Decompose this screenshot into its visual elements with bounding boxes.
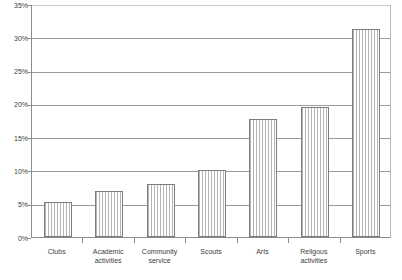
y-tick-label: 10% (2, 168, 28, 175)
bar (147, 184, 175, 237)
x-tick-mark (185, 238, 186, 243)
x-tick-mark (237, 238, 238, 243)
gridline (32, 138, 390, 139)
y-tick-label: 25% (2, 68, 28, 75)
bar (95, 191, 123, 237)
y-tick-label: 20% (2, 101, 28, 108)
bar (249, 119, 277, 237)
plot-area (31, 5, 391, 238)
y-tick-label: 5% (2, 201, 28, 208)
y-tick-label: 35% (2, 2, 28, 9)
x-tick-mark (288, 238, 289, 243)
bar (352, 29, 380, 237)
bar (301, 107, 329, 237)
y-tick-label: 0% (2, 235, 28, 242)
bar (198, 170, 226, 237)
y-tick-label: 15% (2, 135, 28, 142)
y-tick-mark (27, 238, 31, 239)
x-axis-category-label-line: Sports (330, 247, 400, 256)
x-tick-mark (134, 238, 135, 243)
gridline (32, 72, 390, 73)
x-tick-mark (82, 238, 83, 243)
x-axis-category-label: Sports (330, 247, 400, 256)
x-axis-category-label-line: activities (279, 256, 349, 265)
bar (44, 202, 72, 237)
x-axis-category-label-line: service (125, 256, 195, 265)
x-tick-mark (340, 238, 341, 243)
gridline (32, 105, 390, 106)
y-tick-label: 30% (2, 35, 28, 42)
gridline (32, 38, 390, 39)
bar-chart: 0%5%10%15%20%25%30%35% ClubsAcademicacti… (0, 0, 402, 280)
gridline (32, 5, 390, 6)
